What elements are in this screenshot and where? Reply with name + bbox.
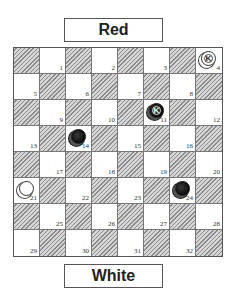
square-number: 19 (160, 169, 167, 176)
board-square-dark (92, 74, 118, 100)
board-square-5[interactable]: 5 (14, 74, 40, 100)
square-number: 15 (134, 143, 141, 150)
king-mark: K (154, 107, 160, 115)
square-number: 12 (213, 117, 220, 124)
square-number: 18 (108, 169, 115, 176)
red-man-piece[interactable] (71, 129, 86, 144)
board-square-21[interactable]: 21 (14, 178, 40, 204)
white-king-piece[interactable]: K (201, 51, 216, 66)
board-square-28[interactable]: 28 (196, 204, 222, 230)
board-square-1[interactable]: 1 (40, 48, 66, 74)
board-square-9[interactable]: 9 (40, 100, 66, 126)
board-square-dark (118, 100, 144, 126)
board-square-22[interactable]: 22 (66, 178, 92, 204)
board-square-24[interactable]: 24 (170, 178, 196, 204)
board-square-30[interactable]: 30 (66, 230, 92, 256)
board-square-dark (170, 100, 196, 126)
square-number: 6 (86, 91, 90, 98)
square-number: 10 (108, 117, 115, 124)
board-square-29[interactable]: 29 (14, 230, 40, 256)
player-label-white: White (64, 264, 163, 288)
board-square-7[interactable]: 7 (118, 74, 144, 100)
board-square-dark (144, 178, 170, 204)
board-square-dark (196, 126, 222, 152)
white-man-piece[interactable] (19, 181, 34, 196)
square-number: 32 (186, 248, 193, 255)
board-square-14[interactable]: 14 (66, 126, 92, 152)
board-square-3[interactable]: 3 (144, 48, 170, 74)
square-number: 1 (60, 65, 64, 72)
board-square-4[interactable]: 4K (196, 48, 222, 74)
board-square-dark (92, 178, 118, 204)
board-square-31[interactable]: 31 (118, 230, 144, 256)
board-square-dark (144, 230, 170, 256)
square-number: 4 (217, 65, 221, 72)
square-number: 24 (186, 195, 193, 202)
board-square-dark (40, 230, 66, 256)
board-square-dark (14, 152, 40, 178)
board-square-18[interactable]: 18 (92, 152, 118, 178)
board-square-26[interactable]: 26 (92, 204, 118, 230)
board-square-25[interactable]: 25 (40, 204, 66, 230)
board-square-10[interactable]: 10 (92, 100, 118, 126)
square-number: 23 (134, 195, 141, 202)
board-square-dark (196, 178, 222, 204)
board-square-27[interactable]: 27 (144, 204, 170, 230)
board-square-dark (66, 48, 92, 74)
square-number: 7 (138, 91, 142, 98)
board-square-dark (66, 152, 92, 178)
board-square-6[interactable]: 6 (66, 74, 92, 100)
square-number: 29 (30, 248, 37, 255)
board-square-16[interactable]: 16 (170, 126, 196, 152)
board-square-dark (170, 204, 196, 230)
checkers-board: 1234K567891011K1213141516171819202122232… (13, 47, 223, 257)
square-number: 11 (160, 117, 167, 124)
square-number: 16 (186, 143, 193, 150)
board-square-17[interactable]: 17 (40, 152, 66, 178)
board-square-dark (92, 126, 118, 152)
red-king-piece[interactable]: K (149, 103, 164, 118)
board-square-20[interactable]: 20 (196, 152, 222, 178)
board-square-dark (144, 74, 170, 100)
board-square-dark (118, 48, 144, 74)
board-square-8[interactable]: 8 (170, 74, 196, 100)
board-square-15[interactable]: 15 (118, 126, 144, 152)
square-number: 17 (56, 169, 63, 176)
board-square-dark (144, 126, 170, 152)
board-square-23[interactable]: 23 (118, 178, 144, 204)
player-label-red: Red (64, 18, 163, 42)
square-number: 25 (56, 221, 63, 228)
square-number: 13 (30, 143, 37, 150)
board-square-13[interactable]: 13 (14, 126, 40, 152)
square-number: 22 (82, 195, 89, 202)
board-square-32[interactable]: 32 (170, 230, 196, 256)
red-man-piece[interactable] (175, 181, 190, 196)
board-square-dark (196, 74, 222, 100)
board-square-dark (66, 100, 92, 126)
board-square-11[interactable]: 11K (144, 100, 170, 126)
board-square-dark (40, 74, 66, 100)
square-number: 31 (134, 248, 141, 255)
square-number: 3 (164, 65, 168, 72)
square-number: 28 (213, 221, 220, 228)
board-square-dark (196, 230, 222, 256)
square-number: 20 (213, 169, 220, 176)
board-square-2[interactable]: 2 (92, 48, 118, 74)
square-number: 21 (30, 195, 37, 202)
board-square-dark (92, 230, 118, 256)
board-square-dark (170, 48, 196, 74)
square-number: 14 (82, 143, 89, 150)
board-square-dark (40, 178, 66, 204)
square-number: 30 (82, 248, 89, 255)
board-square-dark (170, 152, 196, 178)
square-number: 26 (108, 221, 115, 228)
square-number: 2 (112, 65, 116, 72)
square-number: 5 (34, 91, 38, 98)
board-square-12[interactable]: 12 (196, 100, 222, 126)
board-square-dark (118, 204, 144, 230)
board-square-19[interactable]: 19 (144, 152, 170, 178)
square-number: 8 (190, 91, 194, 98)
square-number: 9 (60, 117, 64, 124)
board-square-dark (14, 48, 40, 74)
board-square-dark (118, 152, 144, 178)
